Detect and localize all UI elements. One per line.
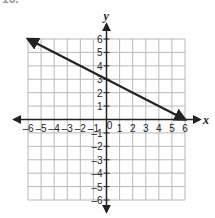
svg-text:6: 6 — [97, 34, 103, 45]
svg-text:4: 4 — [97, 61, 103, 72]
svg-text:–5: –5 — [91, 182, 103, 193]
svg-text:–2: –2 — [91, 141, 103, 152]
svg-text:1: 1 — [117, 123, 123, 134]
coordinate-plane-chart: –6–5–4–3–2–10123456–6–5–4–3–2–1123456 x … — [0, 0, 215, 218]
svg-text:–6: –6 — [22, 123, 34, 134]
y-axis-label: y — [102, 9, 110, 23]
svg-text:–4: –4 — [49, 123, 61, 134]
svg-text:5: 5 — [169, 123, 175, 134]
svg-text:1: 1 — [97, 101, 103, 112]
svg-text:–2: –2 — [75, 123, 87, 134]
svg-text:–5: –5 — [36, 123, 48, 134]
svg-text:5: 5 — [97, 47, 103, 58]
svg-text:0: 0 — [107, 120, 113, 131]
x-axis-label: x — [202, 113, 209, 127]
svg-text:6: 6 — [182, 123, 188, 134]
svg-text:4: 4 — [156, 123, 162, 134]
svg-text:–3: –3 — [62, 123, 74, 134]
svg-text:–4: –4 — [91, 168, 103, 179]
svg-text:2: 2 — [97, 88, 103, 99]
svg-text:2: 2 — [130, 123, 136, 134]
svg-text:–3: –3 — [91, 155, 103, 166]
svg-text:–6: –6 — [91, 195, 103, 206]
svg-text:3: 3 — [143, 123, 149, 134]
svg-text:–1: –1 — [91, 128, 103, 139]
